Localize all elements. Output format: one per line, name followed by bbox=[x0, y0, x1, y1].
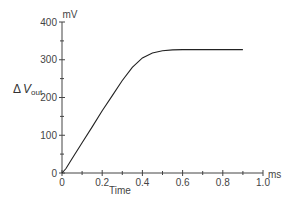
y-axis-title: ΔVout bbox=[13, 82, 43, 97]
x-tick-label: 0.2 bbox=[95, 177, 109, 188]
y-tick-label: 100 bbox=[40, 130, 57, 141]
y-tick-label: 200 bbox=[40, 92, 57, 103]
x-tick-label: 0.6 bbox=[176, 177, 190, 188]
data-line bbox=[62, 50, 243, 173]
x-axis-title: Time bbox=[109, 185, 131, 196]
x-tick-label: 0.4 bbox=[135, 177, 149, 188]
y-axis-title-sub: out bbox=[31, 88, 43, 97]
x-tick-label: 0 bbox=[59, 177, 65, 188]
chart: 0 100 200 300 400 0 0.2 0.4 0.6 0.8 1.0 … bbox=[0, 0, 294, 205]
y-tick-label: 0 bbox=[51, 168, 57, 179]
x-tick-label: 0.8 bbox=[216, 177, 230, 188]
y-axis-title-delta: Δ bbox=[13, 82, 21, 96]
x-unit-label: ms bbox=[268, 169, 281, 180]
y-tick-label: 400 bbox=[40, 17, 57, 28]
y-tick-label: 300 bbox=[40, 54, 57, 65]
y-unit-label: mV bbox=[63, 9, 78, 20]
